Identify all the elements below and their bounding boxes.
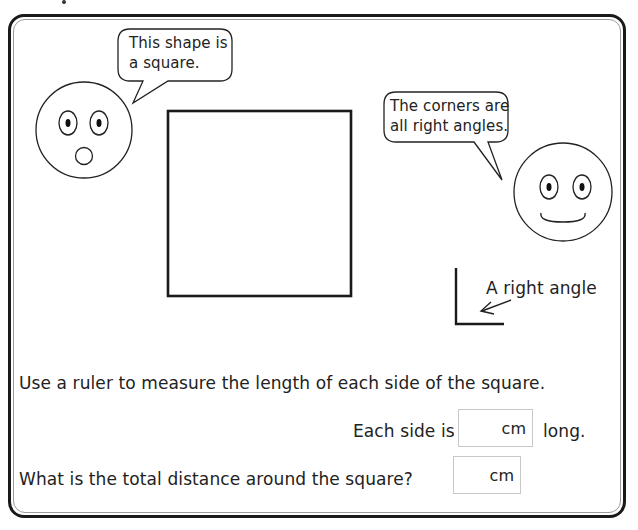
- q1-prefix: Each side is: [353, 421, 455, 441]
- square-shape: [168, 111, 351, 296]
- q2-prompt: What is the total distance around the sq…: [19, 469, 413, 489]
- bubble-right-line-2: all right angles.: [390, 116, 509, 136]
- speech-bubble-left-text: This shape is a square.: [129, 33, 228, 73]
- instruction-text: Use a ruler to measure the length of eac…: [19, 373, 545, 393]
- speech-bubble-right-text: The corners are all right angles.: [390, 96, 509, 136]
- bubble-left-line-1: This shape is: [129, 33, 228, 53]
- bubble-left-line-2: a square.: [129, 53, 228, 73]
- q1-suffix: long.: [543, 421, 586, 441]
- side-length-answer-box[interactable]: cm: [458, 409, 533, 447]
- surprised-face-icon: [36, 82, 132, 178]
- right-angle-label: A right angle: [486, 278, 597, 298]
- bubble-right-line-1: The corners are: [390, 96, 509, 116]
- q2-unit: cm: [490, 466, 514, 485]
- illustration-layer: [0, 0, 638, 530]
- smiling-face-icon: [514, 143, 612, 241]
- arrow-icon: [481, 300, 511, 314]
- q1-unit: cm: [502, 419, 526, 438]
- perimeter-answer-box[interactable]: cm: [453, 456, 521, 494]
